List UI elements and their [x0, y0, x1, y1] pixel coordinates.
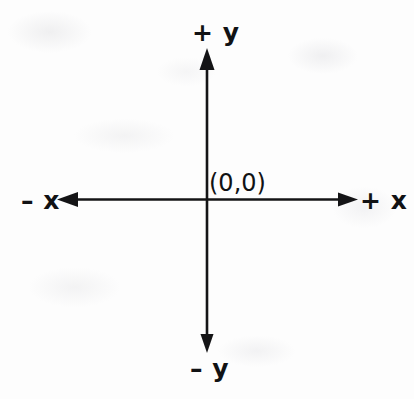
y-axis-up-arrowhead-icon — [200, 48, 215, 70]
negative-x-axis-label: – x — [21, 188, 60, 213]
negative-y-axis-label: – y — [190, 356, 229, 381]
y-axis-down-arrowhead-icon — [201, 334, 214, 353]
axes-drawing — [0, 0, 414, 399]
x-axis-left-arrowhead-icon — [57, 192, 78, 207]
positive-y-axis-label: + y — [192, 20, 239, 45]
x-axis-right-arrowhead-icon — [338, 193, 358, 207]
origin-coordinate-label: (0,0) — [209, 171, 266, 195]
coordinate-axes-diagram: + y – y – x + x (0,0) — [0, 0, 414, 399]
positive-x-axis-label: + x — [360, 188, 407, 213]
